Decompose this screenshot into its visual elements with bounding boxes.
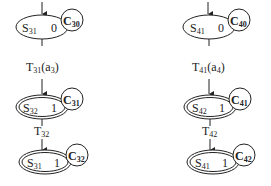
transition-t31: T31(a3) xyxy=(26,60,59,75)
svg-text:1: 1 xyxy=(219,101,225,115)
column-right: S41 0 C40 T41(a4) S42 1 C41 T42 S41 1 xyxy=(183,2,255,174)
state-s41-initial: S41 0 xyxy=(183,15,235,39)
circle-c31: C31 xyxy=(61,88,83,110)
transition-t42: T42 xyxy=(202,124,217,139)
transition-t41: T41(a4) xyxy=(192,60,225,75)
svg-text:1: 1 xyxy=(54,156,60,170)
transition-t32: T32 xyxy=(34,124,49,139)
state-s32-final: S32 1 xyxy=(16,95,68,119)
circle-c40: C40 xyxy=(228,9,250,31)
state-s31-final: S31 1 xyxy=(19,150,71,174)
state-s31-initial: S31 0 xyxy=(16,15,68,39)
circle-c42: C42 xyxy=(233,144,255,166)
state-diagram: S31 0 C30 T31(a3) S32 1 C31 T32 xyxy=(0,0,271,186)
column-left: S31 0 C30 T31(a3) S32 1 C31 T32 xyxy=(16,2,88,174)
circle-c32: C32 xyxy=(66,144,88,166)
state-s42-final: S42 1 xyxy=(184,95,236,119)
circle-c30: C30 xyxy=(61,9,83,31)
svg-text:1: 1 xyxy=(222,156,228,170)
svg-text:0: 0 xyxy=(218,21,224,35)
state-value: 0 xyxy=(51,21,57,35)
state-s41-final: S41 1 xyxy=(187,150,239,174)
svg-text:1: 1 xyxy=(51,101,57,115)
circle-c41: C41 xyxy=(229,88,251,110)
